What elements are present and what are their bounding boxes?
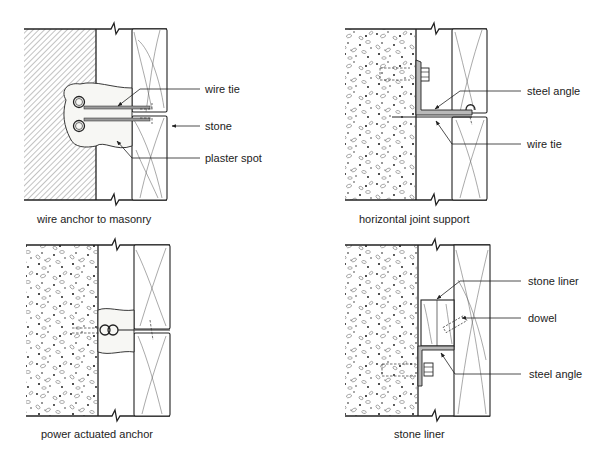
steel-angle: [418, 346, 454, 386]
panel-caption: stone liner: [394, 428, 445, 440]
callout-label: steel angle: [527, 85, 580, 97]
stone-veneer: [132, 29, 167, 200]
panel-horizontal-joint-support: steel angle wire tie horizontal joint su…: [345, 23, 580, 225]
panel-caption: wire anchor to masonry: [36, 213, 152, 225]
panel-caption: horizontal joint support: [359, 213, 470, 225]
stone-veneer: [454, 245, 490, 416]
panel-wire-anchor-to-masonry: wire tie stone plaster spot wire anchor …: [24, 23, 262, 225]
callout-label: wire tie: [204, 83, 240, 95]
callout-label: stone: [205, 120, 232, 132]
callout-label: plaster spot: [205, 152, 262, 164]
plaster-spot: [98, 309, 134, 354]
callout-label: wire tie: [526, 138, 562, 150]
panel-stone-liner: stone liner dowel steel angle stone line…: [345, 239, 582, 440]
concrete-backing: [345, 245, 417, 416]
callout-label: steel angle: [529, 368, 582, 380]
plaster-spot: [64, 83, 132, 148]
panel-power-actuated-anchor: power actuated anchor: [26, 239, 170, 440]
diagram-canvas: wire tie stone plaster spot wire anchor …: [0, 0, 600, 459]
stone-liner: [421, 300, 454, 346]
panel-caption: power actuated anchor: [41, 428, 153, 440]
concrete-backing: [26, 245, 97, 416]
callout-label: dowel: [528, 312, 557, 324]
callout-label: stone liner: [528, 275, 579, 287]
concrete-backing: [345, 29, 415, 200]
